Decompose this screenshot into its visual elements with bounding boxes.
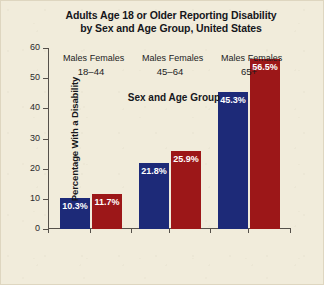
- bar-value-label: 21.8%: [139, 166, 169, 176]
- x-tick-mark: [48, 228, 49, 233]
- y-tick-mark: [43, 48, 49, 49]
- bar-1844-males[interactable]: 10.3%: [60, 198, 90, 229]
- y-tick-label: 20: [30, 163, 40, 173]
- chart-card: Adults Age 18 or Older Reporting Disabil…: [0, 0, 324, 285]
- y-tick-label: 60: [30, 42, 40, 52]
- x-tick-mark: [169, 228, 170, 233]
- x-tick-mark: [290, 228, 291, 233]
- x-tick-mark: [210, 228, 211, 233]
- chart-title: Adults Age 18 or Older Reporting Disabil…: [31, 9, 311, 35]
- y-tick-mark: [43, 139, 49, 140]
- x-group-label-1844: 18–44: [61, 66, 121, 77]
- y-tick-mark: [43, 108, 49, 109]
- y-tick-label: 40: [30, 102, 40, 112]
- x-category-label-females: Females: [165, 53, 207, 63]
- bar-4564-males[interactable]: 21.8%: [139, 163, 169, 229]
- x-axis-title: Sex and Age Group: [48, 92, 300, 103]
- bar-65+-males[interactable]: 45.3%: [218, 92, 248, 229]
- y-tick-label: 10: [30, 193, 40, 203]
- chart-title-line-2: by Sex and Age Group, United States: [31, 22, 311, 35]
- bar-value-label: 11.7%: [92, 197, 122, 207]
- bar-4564-females[interactable]: 25.9%: [171, 151, 201, 229]
- y-tick-mark: [43, 199, 49, 200]
- x-category-label-females: Females: [86, 53, 128, 63]
- bar-65+-females[interactable]: 56.5%: [250, 59, 280, 229]
- plot-area: 0102030405060 10.3%11.7%21.8%25.9%45.3%5…: [48, 48, 300, 229]
- bar-value-label: 25.9%: [171, 154, 201, 164]
- y-tick-label: 0: [35, 223, 40, 233]
- bar-value-label: 10.3%: [60, 201, 90, 211]
- y-tick-mark: [43, 78, 49, 79]
- y-tick-label: 30: [30, 133, 40, 143]
- x-group-label-4564: 45–64: [140, 66, 200, 77]
- bar-1844-females[interactable]: 11.7%: [92, 194, 122, 229]
- y-tick-mark: [43, 169, 49, 170]
- chart-title-line-1: Adults Age 18 or Older Reporting Disabil…: [31, 9, 311, 22]
- y-tick-label: 50: [30, 72, 40, 82]
- x-tick-mark: [131, 228, 132, 233]
- x-category-label-females: Females: [244, 53, 286, 63]
- x-group-label-65+: 65+: [219, 66, 279, 77]
- x-tick-mark: [90, 228, 91, 233]
- x-tick-mark: [248, 228, 249, 233]
